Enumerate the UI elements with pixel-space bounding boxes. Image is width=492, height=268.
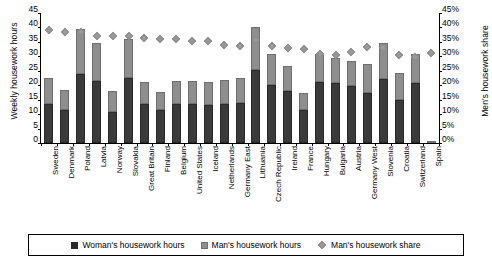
x-axis-category-labels: SwedenDenmarkPolandLatviaNorwaySlovakiaG… [40,146,438,224]
bar-netherlands[interactable] [220,80,229,143]
bar-denmark[interactable] [60,90,69,143]
x-label-lithuania: Lithuania [258,146,267,178]
chart-container: Weekly housework hours Men's housework s… [0,0,492,268]
bar-segment-man-hours [299,93,308,110]
legend-label-man-hours: Man's housework hours [212,240,302,250]
y-tickmark-left [38,129,41,130]
bar-segment-woman-hours [347,86,356,143]
bar-lithuania[interactable] [251,27,260,143]
bar-segment-woman-hours [251,70,260,143]
y-axis-right-title: Men's housework share [480,11,490,131]
x-label-latvia: Latvia [99,146,108,167]
x-label-slovakia: Slovakia [131,146,140,176]
marker-man-share-united-states[interactable] [188,36,196,44]
x-label-czech-republic: Czech Republic [274,146,283,202]
bar-segment-man-hours [427,141,436,143]
bar-bulgaria[interactable] [331,58,340,144]
x-label-belgium: Belgium [179,146,188,175]
y-tick-right-10%: 10% [442,106,459,115]
bar-segment-man-hours [92,43,101,81]
bar-segment-woman-hours [44,104,53,143]
bar-segment-woman-hours [299,110,308,143]
y-tickmark-left [38,42,41,43]
bar-france[interactable] [299,93,308,143]
bar-croatia[interactable] [395,73,404,143]
x-label-netherlands: Netherlands [227,146,236,189]
bar-segment-woman-hours [156,110,165,143]
bar-segment-man-hours [108,91,117,112]
bar-germany-east[interactable] [236,78,245,143]
x-label-germany-west: Germany West [370,146,379,199]
marker-man-share-netherlands[interactable] [220,41,228,49]
marker-man-share-sweden[interactable] [45,26,53,34]
marker-man-share-denmark[interactable] [61,28,69,36]
marker-man-share-great-britain[interactable] [140,34,148,42]
bar-finland[interactable] [156,92,165,143]
marker-man-share-norway[interactable] [108,32,116,40]
bar-segment-woman-hours [172,104,181,143]
y-tick-right-20%: 20% [442,77,459,86]
bar-segment-man-hours [236,78,245,103]
bar-poland[interactable] [76,29,85,143]
y-tickmark-right [439,27,442,28]
bar-segment-man-hours [204,82,213,105]
marker-man-share-iceland[interactable] [204,37,212,45]
bar-sweden[interactable] [44,78,53,143]
bar-segment-man-hours [44,78,53,103]
y-tick-left-45: 45 [29,5,38,14]
x-label-norway: Norway [115,146,124,173]
marker-man-share-belgium[interactable] [172,34,180,42]
marker-man-share-latvia[interactable] [92,32,100,40]
marker-man-share-spain[interactable] [427,48,435,56]
bar-norway[interactable] [108,91,117,143]
marker-man-share-germany-east[interactable] [236,42,244,50]
y-tickmark-left [38,85,41,86]
marker-man-share-finland[interactable] [156,34,164,42]
y-tickmark-left [38,13,41,14]
y-tickmark-right [439,42,442,43]
bar-austria[interactable] [347,61,356,143]
bar-slovakia[interactable] [124,39,133,143]
plot-area [40,13,439,144]
bar-switzerland[interactable] [411,54,420,143]
bar-segment-woman-hours [331,83,340,143]
bar-united-states[interactable] [188,81,197,143]
legend-label-man-share: Man's housework share [331,240,421,250]
bar-segment-woman-hours [204,105,213,143]
bar-iceland[interactable] [204,82,213,143]
chart-legend: Woman's housework hours Man's housework … [28,234,464,256]
x-label-hungary: Hungary [322,146,331,176]
x-label-france: France [306,146,315,171]
y-tickmark-left [38,100,41,101]
legend-item-man-hours: Man's housework hours [201,240,302,250]
x-label-austria: Austria [354,146,363,171]
y-axis-left-ticks: 051015202530354045 [12,9,38,139]
bar-slovenia[interactable] [379,43,388,143]
bar-segment-woman-hours [92,81,101,143]
bar-ireland[interactable] [283,66,292,143]
y-tickmark-right [439,100,442,101]
y-tick-left-40: 40 [29,19,38,28]
x-label-great-britain: Great Britain [147,146,156,191]
bar-hungary[interactable] [315,54,324,143]
bar-latvia[interactable] [92,43,101,143]
marker-man-share-ireland[interactable] [284,44,292,52]
bar-great-britain[interactable] [140,82,149,143]
marker-man-share-germany-west[interactable] [363,43,371,51]
marker-man-share-france[interactable] [299,45,307,53]
bar-segment-man-hours [156,92,165,110]
bar-belgium[interactable] [172,81,181,143]
bar-germany-west[interactable] [363,64,372,143]
bar-czech-republic[interactable] [267,54,276,143]
y-tick-right-45%: 45% [442,5,459,14]
marker-man-share-czech-republic[interactable] [268,42,276,50]
bar-segment-woman-hours [188,104,197,143]
bar-segment-woman-hours [76,74,85,143]
marker-man-share-austria[interactable] [347,48,355,56]
y-tick-left-25: 25 [29,63,38,72]
right-axis-line [439,13,440,143]
bar-segment-woman-hours [124,78,133,143]
bar-segment-man-hours [347,61,356,86]
marker-man-share-croatia[interactable] [395,51,403,59]
bar-segment-woman-hours [283,91,292,143]
